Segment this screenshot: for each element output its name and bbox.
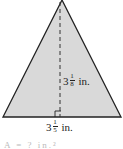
cut-off-area-text: A = ? in.² <box>4 140 58 149</box>
base-label: 3 1 5 in. <box>46 119 73 134</box>
height-fraction: 1 8 <box>70 73 75 88</box>
height-label: 3 1 8 in. <box>63 73 90 88</box>
base-denominator: 5 <box>53 127 57 134</box>
triangle <box>3 0 121 117</box>
base-unit: in. <box>62 121 73 133</box>
base-fraction: 1 5 <box>53 119 58 134</box>
base-whole: 3 <box>46 121 52 133</box>
height-numerator: 1 <box>70 73 74 80</box>
height-unit: in. <box>79 75 90 87</box>
base-numerator: 1 <box>53 119 57 126</box>
height-whole: 3 <box>63 75 69 87</box>
height-denominator: 8 <box>70 81 74 88</box>
